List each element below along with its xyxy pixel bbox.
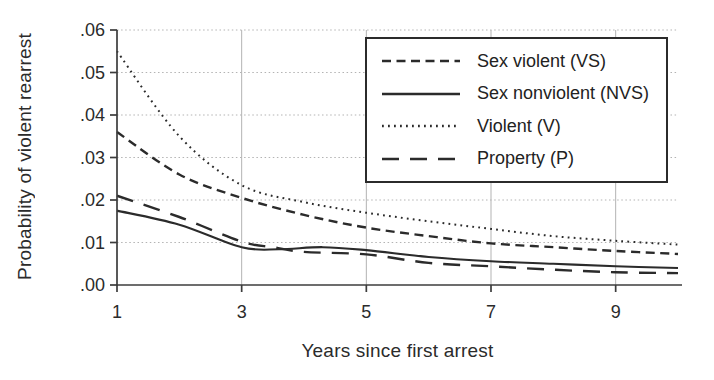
y-tick-label: .04	[80, 105, 105, 125]
y-tick-label: .03	[80, 148, 105, 168]
x-tick-label: 3	[237, 302, 247, 322]
y-tick-label: .02	[80, 190, 105, 210]
legend-line-icon	[381, 57, 461, 65]
y-tick-label: .01	[80, 233, 105, 253]
series-line-property-p	[117, 196, 678, 273]
legend-line-icon	[381, 155, 461, 163]
legend-item-sex-violent-vs: Sex violent (VS)	[381, 51, 666, 72]
legend-label: Sex nonviolent (NVS)	[477, 83, 649, 104]
legend-label: Sex violent (VS)	[477, 51, 606, 72]
rearrest-probability-chart: .00.01.02.03.04.05.0613579 Probability o…	[0, 0, 714, 380]
legend-line-icon	[381, 90, 461, 98]
y-tick-label: .00	[80, 275, 105, 295]
y-tick-label: .06	[80, 20, 105, 40]
legend-label: Violent (V)	[477, 116, 561, 137]
legend-item-sex-nonviolent-nvs: Sex nonviolent (NVS)	[381, 83, 666, 104]
y-axis-title: Probability of violent rearrest	[14, 33, 36, 280]
chart-legend: Sex violent (VS) Sex nonviolent (NVS) Vi…	[365, 37, 668, 183]
x-tick-label: 1	[112, 302, 122, 322]
x-tick-label: 9	[611, 302, 621, 322]
x-tick-label: 7	[486, 302, 496, 322]
legend-item-violent-v: Violent (V)	[381, 116, 666, 137]
legend-line-icon	[381, 122, 461, 130]
x-tick-label: 5	[361, 302, 371, 322]
legend-item-property-p: Property (P)	[381, 148, 666, 169]
y-tick-label: .05	[80, 63, 105, 83]
x-axis-title: Years since first arrest	[117, 340, 678, 362]
y-axis-title-wrap: Probability of violent rearrest	[10, 22, 40, 290]
legend-label: Property (P)	[477, 148, 574, 169]
